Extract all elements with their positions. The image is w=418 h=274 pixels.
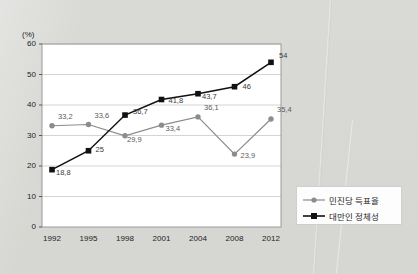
y-axis-tick-30: 30 (10, 131, 36, 140)
legend-item-dpp-vote-share[interactable]: 민진당 득표율 (303, 193, 379, 207)
data-label: 33,6 (95, 111, 110, 120)
legend-item-taiwanese-identity[interactable]: 대만인 정체성 (303, 209, 379, 223)
line-chart (0, 0, 418, 274)
data-label: 23,9 (241, 151, 256, 160)
legend-label: 대만인 정체성 (329, 210, 379, 222)
legend-circle-marker-icon (303, 195, 325, 205)
data-label: 35,4 (277, 105, 292, 114)
data-label: 36,1 (204, 103, 219, 112)
data-label: 36,7 (133, 107, 148, 116)
x-axis-tick-2004: 2004 (178, 234, 218, 243)
data-label: 54 (279, 51, 287, 60)
y-axis-tick-10: 10 (10, 192, 36, 201)
data-label: 43,7 (202, 92, 217, 101)
y-axis-tick-0: 0 (10, 222, 36, 231)
data-label: 46 (243, 82, 251, 91)
data-label: 33,2 (58, 112, 73, 121)
x-axis-tick-2008: 2008 (215, 234, 255, 243)
legend-square-marker-icon (303, 211, 325, 221)
y-axis-tick-50: 50 (10, 70, 36, 79)
chart-legend: 민진당 득표율대만인 정체성 (296, 186, 402, 225)
data-label: 41,8 (169, 96, 184, 105)
data-label: 33,4 (166, 124, 181, 133)
x-axis-tick-1998: 1998 (105, 234, 145, 243)
data-label: 29,9 (127, 135, 142, 144)
y-axis-tick-40: 40 (10, 100, 36, 109)
x-axis-tick-1992: 1992 (32, 234, 72, 243)
x-axis-tick-1995: 1995 (69, 234, 109, 243)
x-axis-tick-2012: 2012 (251, 234, 291, 243)
x-axis-tick-2001: 2001 (142, 234, 182, 243)
legend-label: 민진당 득표율 (329, 194, 379, 206)
data-label: 18,8 (56, 168, 71, 177)
y-axis-tick-20: 20 (10, 161, 36, 170)
data-label: 25 (96, 145, 104, 154)
y-axis-tick-60: 60 (10, 39, 36, 48)
